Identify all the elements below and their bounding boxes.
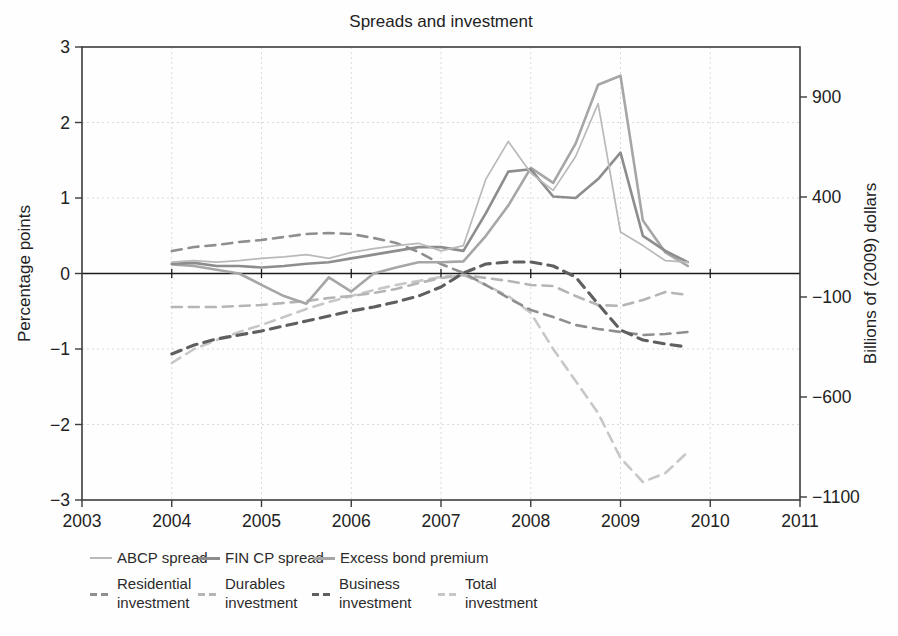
legend-item-fin-cp-spread: FIN CP spread <box>198 548 324 568</box>
legend-item-business-investment: Business investment <box>312 573 425 615</box>
right-axis-tick-label: −100 <box>812 287 852 307</box>
right-axis-tick-label: −600 <box>812 387 852 407</box>
legend-label: Excess bond premium <box>340 549 488 568</box>
x-axis-tick-label: 2005 <box>242 511 281 531</box>
x-axis-tick-label: 2008 <box>511 511 550 531</box>
left-axis-tick-label: 0 <box>60 264 70 284</box>
right-axis-tick-label: 900 <box>812 87 841 107</box>
left-axis-tick-label: 1 <box>60 188 70 208</box>
legend-item-durables-investment: Durables investment <box>198 573 311 615</box>
chart-page: Spreads and investment 3210−1−2−32003200… <box>0 0 898 636</box>
legend-swatch-solid-line <box>90 557 112 559</box>
legend-swatch-dashed-line <box>198 593 220 596</box>
left-axis-tick-label: 3 <box>60 37 70 57</box>
left-axis-title: Percentage points <box>15 205 34 342</box>
x-axis-tick-label: 2010 <box>691 511 730 531</box>
legend-label: Business investment <box>339 575 425 613</box>
x-axis-tick-label: 2009 <box>601 511 640 531</box>
x-axis-tick-label: 2006 <box>332 511 371 531</box>
legend-item-residential-investment: Residential investment <box>90 573 203 615</box>
legend-swatch-dashed-line <box>438 593 460 596</box>
left-axis-tick-label: −2 <box>50 415 70 435</box>
x-axis-tick-label: 2004 <box>152 511 191 531</box>
left-axis-tick-label: 2 <box>60 113 70 133</box>
legend-label: Residential investment <box>117 575 203 613</box>
x-axis-tick-label: 2011 <box>781 511 819 531</box>
spreads-investment-line-chart: 3210−1−2−3200320042005200620072008200920… <box>0 0 898 636</box>
legend-label: Total investment <box>465 575 551 613</box>
legend-item-abcp-spread: ABCP spread <box>90 548 208 568</box>
legend-swatch-solid-line <box>313 557 335 560</box>
right-axis-tick-label: −1100 <box>812 487 860 507</box>
series-abcp <box>172 104 688 263</box>
legend-label: FIN CP spread <box>225 549 324 568</box>
x-axis-tick-label: 2003 <box>63 511 102 531</box>
legend-swatch-dashed-line <box>90 593 112 596</box>
legend-swatch-dashed-line <box>312 593 334 596</box>
left-axis-tick-label: −1 <box>50 339 70 359</box>
legend-label: Durables investment <box>225 575 311 613</box>
legend-item-excess-bond-premium: Excess bond premium <box>313 548 488 568</box>
left-axis-tick-label: −3 <box>50 490 70 510</box>
legend-swatch-solid-line <box>198 557 220 560</box>
legend-item-total-investment: Total investment <box>438 573 551 615</box>
series-ebp <box>172 76 688 304</box>
series-business <box>172 262 688 354</box>
x-axis-tick-label: 2007 <box>422 511 461 531</box>
right-axis-tick-label: 400 <box>812 187 841 207</box>
right-axis-title: Billions of (2009) dollars <box>861 183 880 364</box>
legend-label: ABCP spread <box>117 549 208 568</box>
